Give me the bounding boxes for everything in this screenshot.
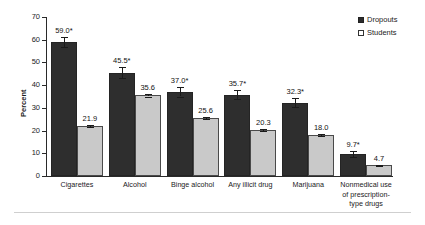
bar-value-label: 18.0	[303, 123, 339, 132]
bar-students	[135, 95, 161, 176]
legend-swatch-icon	[358, 17, 364, 23]
footer-divider	[14, 212, 411, 213]
y-axis-line	[46, 17, 47, 176]
error-bar-cap-lower	[145, 97, 152, 98]
error-bar	[180, 87, 181, 96]
error-bar-cap-upper	[119, 67, 126, 68]
bar-value-label: 35.6	[130, 83, 166, 92]
error-bar-cap-upper	[318, 134, 325, 135]
bar-value-label: 25.6	[188, 106, 224, 115]
category-label-line: Alcohol	[102, 180, 168, 190]
bar-value-label: 45.5*	[104, 56, 140, 65]
error-bar	[64, 37, 65, 47]
category-label-line: type drugs	[333, 199, 399, 209]
category-label-line: Cigarettes	[44, 180, 110, 190]
y-axis-tick-label: 30	[32, 103, 40, 112]
error-bar-cap-lower	[234, 99, 241, 100]
bar-value-label: 32.3*	[277, 87, 313, 96]
error-bar	[237, 90, 238, 99]
category-label-line: Any illicit drug	[217, 180, 283, 190]
bar-dropouts	[282, 103, 308, 176]
error-bar-cap-upper	[350, 151, 357, 152]
error-bar-cap-upper	[145, 94, 152, 95]
category-label-line: of prescription-	[333, 190, 399, 200]
y-axis-tick-mark	[42, 62, 46, 63]
y-axis-title: Percent	[17, 78, 31, 128]
bar-dropouts	[51, 42, 77, 176]
bar-dropouts	[167, 92, 193, 176]
error-bar-cap-lower	[177, 97, 184, 98]
bar-value-label: 9.7*	[335, 140, 371, 149]
x-axis-category-label: Any illicit drug	[217, 180, 283, 190]
bar-students	[250, 130, 276, 176]
error-bar-cap-lower	[119, 78, 126, 79]
error-bar-cap-upper	[203, 117, 210, 118]
y-axis-tick-label: 40	[32, 80, 40, 89]
legend-item-students[interactable]: Students	[358, 27, 397, 38]
bar-value-label: 35.7*	[219, 79, 255, 88]
error-bar-cap-lower	[87, 127, 94, 128]
error-bar-cap-upper	[234, 90, 241, 91]
error-bar-cap-upper	[177, 87, 184, 88]
bar-value-label: 21.9	[72, 114, 108, 123]
error-bar-cap-lower	[292, 107, 299, 108]
y-axis-tick-label: 60	[32, 35, 40, 44]
legend-swatch-icon	[358, 30, 364, 36]
y-axis-tick-mark	[42, 176, 46, 177]
error-bar-cap-upper	[87, 125, 94, 126]
plot-area: 010203040506070 59.0*45.5*37.0*35.7*32.3…	[46, 17, 393, 176]
category-label-line: Marijuana	[275, 180, 341, 190]
x-axis-category-label: Nonmedical useof prescription-type drugs	[333, 180, 399, 209]
y-axis-tick-label: 20	[32, 126, 40, 135]
x-axis-category-label: Cigarettes	[44, 180, 110, 190]
error-bar-cap-lower	[260, 131, 267, 132]
bar-value-label: 59.0*	[46, 26, 82, 35]
y-axis-tick-mark	[42, 85, 46, 86]
x-axis-category-label: Binge alcohol	[160, 180, 226, 190]
category-label-line: Binge alcohol	[160, 180, 226, 190]
legend-item-label: Dropouts	[367, 15, 397, 24]
y-axis-tick-label: 10	[32, 148, 40, 157]
legend-item-label: Students	[367, 28, 397, 37]
error-bar-cap-lower	[61, 47, 68, 48]
bar-value-label: 20.3	[245, 118, 281, 127]
error-bar	[295, 98, 296, 108]
error-bar-cap-lower	[318, 136, 325, 137]
bar-value-label: 4.7	[361, 154, 397, 163]
y-axis-tick-mark	[42, 40, 46, 41]
y-axis-tick-mark	[42, 17, 46, 18]
chart-legend: DropoutsStudents	[358, 14, 397, 40]
bar-students	[308, 135, 334, 176]
legend-item-dropouts[interactable]: Dropouts	[358, 14, 397, 25]
bar-students	[77, 126, 103, 176]
bar-students	[193, 118, 219, 176]
error-bar-cap-upper	[61, 37, 68, 38]
x-axis-category-label: Marijuana	[275, 180, 341, 190]
y-axis-tick-mark	[42, 131, 46, 132]
bar-dropouts	[224, 95, 250, 176]
y-axis-tick-mark	[42, 108, 46, 109]
bar-chart-figure: Percent 010203040506070 59.0*45.5*37.0*3…	[0, 0, 425, 225]
error-bar-cap-upper	[260, 129, 267, 130]
error-bar-cap-upper	[292, 98, 299, 99]
error-bar-cap-lower	[350, 157, 357, 158]
y-axis-tick-label: 50	[32, 57, 40, 66]
error-bar-cap-lower	[376, 166, 383, 167]
y-axis-tick-label: 0	[36, 171, 40, 180]
x-axis-category-label: Alcohol	[102, 180, 168, 190]
error-bar-cap-lower	[203, 119, 210, 120]
y-axis-tick-label: 70	[32, 12, 40, 21]
bar-value-label: 37.0*	[162, 76, 198, 85]
y-axis-tick-mark	[42, 153, 46, 154]
category-label-line: Nonmedical use	[333, 180, 399, 190]
x-axis-line	[46, 176, 393, 177]
error-bar	[122, 67, 123, 77]
